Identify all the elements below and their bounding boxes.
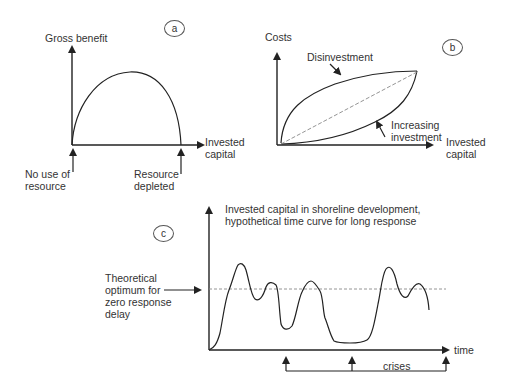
optimum-label-2: optimum for — [105, 284, 160, 297]
panel-c — [164, 208, 448, 371]
panel-c-title-2: hypothetical time curve for long respons… — [225, 215, 416, 228]
panel-a-x-label-2: capital — [205, 148, 235, 161]
disinvestment-pointer — [330, 64, 340, 74]
depleted-label-1: Resource — [134, 168, 179, 181]
increasing-investment-label-2: investment — [391, 131, 442, 144]
time-axis-label: time — [454, 344, 474, 357]
panel-c-badge: c — [153, 225, 174, 242]
panel-b-badge: b — [442, 39, 463, 56]
diagram-canvas — [0, 0, 506, 390]
optimum-label-3: zero response — [105, 296, 172, 309]
no-use-label-2: resource — [25, 180, 66, 193]
panel-a — [72, 47, 203, 174]
crises-label: crises — [383, 360, 410, 373]
panel-a-y-label: Gross benefit — [45, 32, 107, 45]
panel-c-title-1: Invested capital in shoreline developmen… — [225, 203, 421, 216]
panel-a-x-label-1: Invested — [205, 136, 245, 149]
panel-b-x-label-1: Invested — [446, 136, 486, 149]
no-use-label-1: No use of — [25, 168, 70, 181]
panel-a-benefit-curve — [72, 72, 181, 145]
increasing-investment-pointer — [377, 122, 385, 137]
optimum-label-4: delay — [105, 308, 130, 321]
invested-capital-time-curve — [209, 264, 429, 350]
disinvestment-label: Disinvestment — [307, 51, 373, 64]
depleted-label-2: depleted — [134, 180, 174, 193]
panel-a-badge: a — [164, 20, 185, 37]
panel-b-y-label: Costs — [265, 31, 292, 44]
increasing-investment-label-1: Increasing — [391, 119, 439, 132]
panel-b-x-label-2: capital — [446, 148, 476, 161]
optimum-label-1: Theoretical — [105, 272, 157, 285]
